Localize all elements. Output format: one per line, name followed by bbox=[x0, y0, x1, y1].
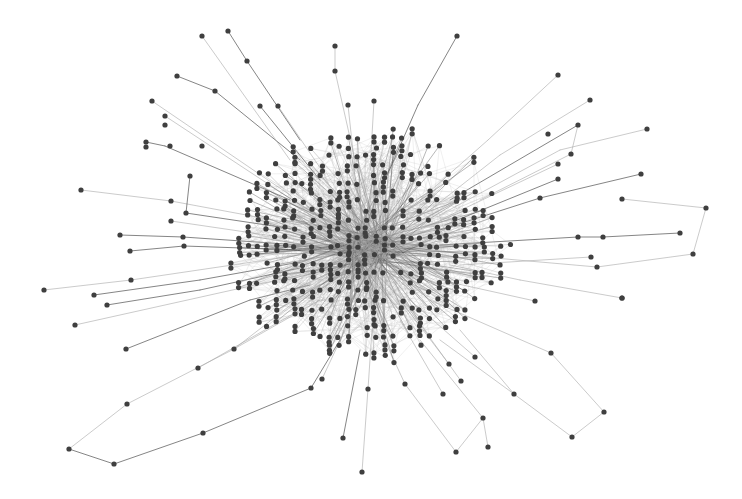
graph-node bbox=[426, 289, 431, 294]
graph-node bbox=[300, 239, 305, 244]
edge bbox=[69, 404, 127, 449]
graph-node bbox=[364, 280, 369, 285]
graph-node bbox=[345, 168, 350, 173]
graph-node bbox=[463, 208, 468, 213]
graph-node bbox=[292, 324, 297, 329]
graph-node bbox=[309, 190, 314, 195]
graph-node bbox=[328, 204, 333, 209]
graph-node bbox=[309, 308, 314, 313]
graph-node bbox=[472, 252, 477, 257]
graph-node bbox=[400, 170, 405, 175]
graph-node bbox=[347, 245, 352, 250]
graph-node bbox=[346, 218, 351, 223]
graph-node bbox=[408, 280, 413, 285]
graph-node bbox=[454, 33, 459, 38]
graph-node bbox=[355, 287, 360, 292]
edge bbox=[362, 389, 368, 472]
graph-node bbox=[291, 144, 296, 149]
graph-node bbox=[346, 307, 351, 312]
graph-node bbox=[498, 253, 503, 258]
graph-node bbox=[123, 346, 128, 351]
graph-node bbox=[434, 307, 439, 312]
graph-node bbox=[310, 289, 315, 294]
graph-node bbox=[292, 227, 297, 232]
graph-node bbox=[104, 302, 109, 307]
graph-node bbox=[437, 280, 442, 285]
graph-node bbox=[311, 275, 316, 280]
graph-node bbox=[399, 148, 404, 153]
graph-node bbox=[292, 306, 297, 311]
graph-node bbox=[274, 319, 279, 324]
graph-node bbox=[231, 346, 236, 351]
graph-node bbox=[363, 152, 368, 157]
graph-node bbox=[362, 261, 367, 266]
edge bbox=[203, 388, 311, 433]
graph-node bbox=[399, 305, 404, 310]
graph-node bbox=[381, 328, 386, 333]
edge bbox=[520, 280, 622, 298]
graph-node bbox=[283, 198, 288, 203]
graph-node bbox=[300, 289, 305, 294]
graph-node bbox=[555, 72, 560, 77]
graph-node bbox=[401, 162, 406, 167]
graph-node bbox=[390, 189, 395, 194]
graph-node bbox=[382, 347, 387, 352]
graph-node bbox=[318, 213, 323, 218]
edge bbox=[260, 106, 320, 180]
graph-node bbox=[382, 170, 387, 175]
graph-node bbox=[381, 185, 386, 190]
edge bbox=[177, 76, 215, 91]
graph-node bbox=[407, 325, 412, 330]
graph-node bbox=[281, 206, 286, 211]
edge bbox=[44, 280, 131, 290]
graph-node bbox=[381, 334, 386, 339]
graph-node bbox=[199, 143, 204, 148]
graph-node bbox=[443, 180, 448, 185]
graph-node bbox=[254, 186, 259, 191]
graph-node bbox=[362, 298, 367, 303]
graph-node bbox=[327, 335, 332, 340]
edge bbox=[514, 394, 572, 437]
graph-node bbox=[346, 284, 351, 289]
graph-node bbox=[383, 236, 388, 241]
graph-node bbox=[417, 328, 422, 333]
graph-node bbox=[195, 365, 200, 370]
graph-node bbox=[444, 275, 449, 280]
edge bbox=[603, 233, 680, 237]
graph-node bbox=[354, 163, 359, 168]
graph-node bbox=[327, 233, 332, 238]
graph-node bbox=[427, 188, 432, 193]
graph-node bbox=[246, 243, 251, 248]
graph-node bbox=[272, 280, 277, 285]
graph-node bbox=[311, 218, 316, 223]
graph-node bbox=[371, 350, 376, 355]
graph-node bbox=[479, 270, 484, 275]
graph-node bbox=[72, 322, 77, 327]
graph-node bbox=[371, 157, 376, 162]
graph-node bbox=[283, 298, 288, 303]
graph-node bbox=[180, 234, 185, 239]
graph-node bbox=[162, 113, 167, 118]
graph-node bbox=[428, 234, 433, 239]
graph-node bbox=[309, 207, 314, 212]
edge bbox=[483, 418, 488, 447]
edge bbox=[126, 300, 250, 349]
graph-node bbox=[264, 215, 269, 220]
graph-node bbox=[575, 234, 580, 239]
graph-node bbox=[309, 321, 314, 326]
graph-node bbox=[480, 235, 485, 240]
edge bbox=[440, 150, 560, 215]
edge bbox=[572, 412, 604, 437]
edge bbox=[488, 75, 558, 140]
graph-node bbox=[344, 189, 349, 194]
graph-node bbox=[471, 215, 476, 220]
graph-node bbox=[319, 268, 324, 273]
edge bbox=[202, 36, 290, 160]
edge bbox=[69, 449, 114, 464]
graph-node bbox=[254, 281, 259, 286]
graph-node bbox=[328, 262, 333, 267]
graph-node bbox=[337, 181, 342, 186]
graph-node bbox=[417, 235, 422, 240]
graph-node bbox=[282, 234, 287, 239]
graph-node bbox=[346, 269, 351, 274]
